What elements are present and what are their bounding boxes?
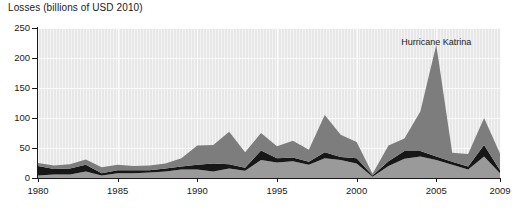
gridline-vertical <box>500 28 501 178</box>
y-tick-label: 50 <box>0 143 30 153</box>
x-tick-label: 2000 <box>346 185 367 196</box>
x-tick-label: 2009 <box>489 185 510 196</box>
y-axis-title: Losses (billions of USD 2010) <box>8 2 143 14</box>
y-axis-line <box>37 27 38 179</box>
y-tick-label: 250 <box>0 23 30 33</box>
x-axis-line <box>37 178 501 179</box>
x-tick-label: 1990 <box>187 185 208 196</box>
x-tick-label: 2005 <box>426 185 447 196</box>
stacked-area-series <box>38 28 500 178</box>
y-tick-label: 150 <box>0 83 30 93</box>
y-tick-label: 100 <box>0 113 30 123</box>
chart-container: Losses (billions of USD 2010) 0501001502… <box>0 0 517 219</box>
x-tick-label: 1985 <box>107 185 128 196</box>
y-tick-label: 0 <box>0 173 30 183</box>
x-tick-label: 1995 <box>266 185 287 196</box>
y-tick-label: 200 <box>0 53 30 63</box>
x-tick-label: 1980 <box>27 185 48 196</box>
plot-area <box>38 28 500 178</box>
